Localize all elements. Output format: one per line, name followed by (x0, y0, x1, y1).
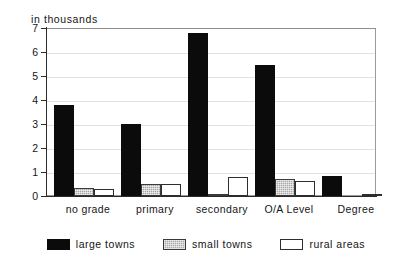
x-tick-label-oa-level: O/A Level (255, 203, 323, 215)
y-tick-label: 0 (26, 191, 38, 201)
unit-caption: in thousands (31, 13, 98, 25)
bar-rural-areas[interactable] (362, 194, 382, 196)
y-tick-label: 5 (26, 71, 38, 81)
x-tick-label-primary: primary (121, 203, 189, 215)
bar-rural-areas[interactable] (94, 189, 114, 196)
bar-large-towns[interactable] (322, 176, 342, 196)
y-tick (41, 196, 46, 197)
x-tick-label-degree: Degree (322, 203, 390, 215)
legend-label: large towns (76, 238, 135, 250)
y-tick-label: 2 (26, 143, 38, 153)
chart-legend: large towns small towns rural areas (0, 238, 412, 250)
bar-large-towns[interactable] (255, 65, 275, 196)
bar-large-towns[interactable] (54, 105, 74, 196)
bar-group-degree (322, 28, 382, 196)
y-tick-label: 7 (26, 23, 38, 33)
bars-layer (46, 28, 376, 196)
bar-small-towns[interactable] (208, 194, 228, 196)
bar-rural-areas[interactable] (295, 181, 315, 196)
bar-small-towns[interactable] (141, 184, 161, 196)
legend-label: small towns (192, 238, 252, 250)
black-solid-swatch-icon (47, 239, 70, 250)
x-tick-label-secondary: secondary (188, 203, 256, 215)
bar-small-towns[interactable] (275, 179, 295, 196)
bar-chart: in thousands 7 6 5 4 3 2 1 0 (0, 0, 412, 269)
bar-large-towns[interactable] (121, 124, 141, 196)
bar-group-secondary (188, 28, 248, 196)
x-axis-line (46, 196, 377, 197)
bar-group-no-grade (54, 28, 114, 196)
legend-item-small-towns[interactable]: small towns (163, 238, 252, 250)
bar-rural-areas[interactable] (228, 177, 248, 196)
bar-large-towns[interactable] (188, 33, 208, 196)
white-outline-swatch-icon (280, 239, 303, 250)
x-tick-label-no-grade: no grade (54, 203, 122, 215)
legend-item-rural-areas[interactable]: rural areas (280, 238, 365, 250)
bar-small-towns[interactable] (74, 188, 94, 196)
legend-item-large-towns[interactable]: large towns (47, 238, 135, 250)
y-tick-label: 6 (26, 47, 38, 57)
gray-hatched-swatch-icon (163, 239, 186, 250)
y-tick-label: 4 (26, 95, 38, 105)
y-tick-label: 1 (26, 167, 38, 177)
y-tick-label: 3 (26, 119, 38, 129)
legend-label: rural areas (309, 238, 365, 250)
bar-group-primary (121, 28, 181, 196)
bar-rural-areas[interactable] (161, 184, 181, 196)
bar-group-oa-level (255, 28, 315, 196)
